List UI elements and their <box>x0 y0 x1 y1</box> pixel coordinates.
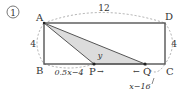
region-y-label: y <box>97 51 103 60</box>
top-length-label: 12 <box>98 3 109 13</box>
top-dimension-arc <box>44 13 165 24</box>
label-p: P <box>89 66 96 77</box>
qc-pointer-line <box>152 78 154 84</box>
shaded-triangle-apq <box>44 23 145 64</box>
geometry-diagram: 1 A D B C P Q → ← 12 4 4 y 0.5x−4 x−16 <box>0 0 180 96</box>
left-dimension-arc <box>37 23 44 64</box>
label-q: Q <box>143 66 151 77</box>
p-motion-arrow-icon: → <box>97 67 104 76</box>
label-d: D <box>165 11 173 22</box>
label-a: A <box>35 12 44 23</box>
q-motion-arrow-icon: ← <box>133 67 140 76</box>
label-c: C <box>166 66 174 77</box>
left-height-label: 4 <box>30 39 36 49</box>
bp-length-label: 0.5x−4 <box>54 68 83 77</box>
qc-length-label: x−16 <box>129 82 150 91</box>
problem-number: 1 <box>10 8 16 18</box>
right-height-label: 4 <box>171 39 177 49</box>
label-b: B <box>36 65 43 76</box>
